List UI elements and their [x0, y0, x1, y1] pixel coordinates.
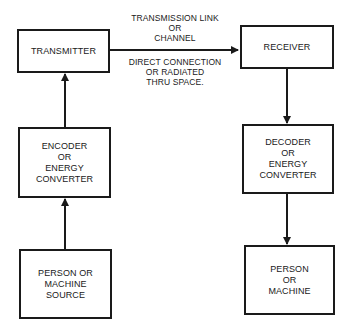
encoder-box: ENCODER OR ENERGY CONVERTER [18, 127, 111, 198]
transmitter-box: TRANSMITTER [17, 29, 110, 73]
link-label-above: TRANSMISSION LINK OR CHANNEL [120, 13, 230, 43]
decoder-label: DECODER OR ENERGY CONVERTER [259, 137, 316, 181]
decoder-box: DECODER OR ENERGY CONVERTER [242, 124, 334, 194]
destination-label: PERSON OR MACHINE [268, 264, 310, 297]
receiver-box: RECEIVER [240, 25, 334, 69]
source-label: PERSON OR MACHINE SOURCE [38, 268, 93, 301]
source-box: PERSON OR MACHINE SOURCE [19, 249, 112, 319]
link-label-below: DIRECT CONNECTION OR RADIATED THRU SPACE… [120, 57, 230, 87]
destination-box: PERSON OR MACHINE [244, 245, 335, 315]
receiver-label: RECEIVER [264, 42, 311, 53]
encoder-label: ENCODER OR ENERGY CONVERTER [36, 141, 93, 185]
transmitter-label: TRANSMITTER [31, 46, 96, 57]
